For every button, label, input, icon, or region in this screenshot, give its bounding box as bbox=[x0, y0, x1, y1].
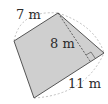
label-height: 8 m bbox=[50, 36, 75, 51]
label-side-top: 7 m bbox=[16, 7, 41, 22]
kite-diagram: 7 m 8 m 11 m bbox=[0, 0, 108, 104]
label-side-bottom: 11 m bbox=[68, 76, 101, 91]
